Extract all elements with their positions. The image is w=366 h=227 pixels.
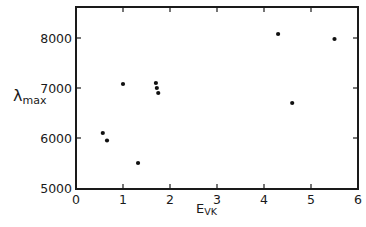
x-tick-label: 1: [119, 192, 127, 207]
data-point: [154, 81, 158, 85]
y-tick-label: 8000: [40, 31, 72, 46]
x-axis-tick-labels: 0123456: [72, 192, 362, 207]
data-point: [121, 82, 125, 86]
x-tick-label: 5: [307, 192, 315, 207]
y-tick-label: 6000: [40, 131, 72, 146]
data-point: [105, 138, 109, 142]
data-point: [332, 37, 336, 41]
y-axis-ticks: [76, 38, 358, 138]
x-tick-label: 0: [72, 192, 80, 207]
data-point: [155, 86, 159, 90]
y-tick-label: 5000: [40, 181, 72, 196]
data-points: [101, 32, 337, 165]
data-point: [101, 131, 105, 135]
data-point: [290, 101, 294, 105]
plot-frame: [76, 7, 358, 189]
data-point: [136, 161, 140, 165]
x-tick-label: 4: [260, 192, 268, 207]
x-tick-label: 2: [166, 192, 174, 207]
x-tick-label: 6: [354, 192, 362, 207]
data-point: [156, 91, 160, 95]
x-axis-ticks: [123, 7, 311, 189]
scatter-chart: 0123456 5000600070008000 EVK λmax: [0, 0, 366, 227]
data-point: [276, 32, 280, 36]
y-axis-tick-labels: 5000600070008000: [40, 31, 72, 196]
x-tick-label: 3: [213, 192, 221, 207]
